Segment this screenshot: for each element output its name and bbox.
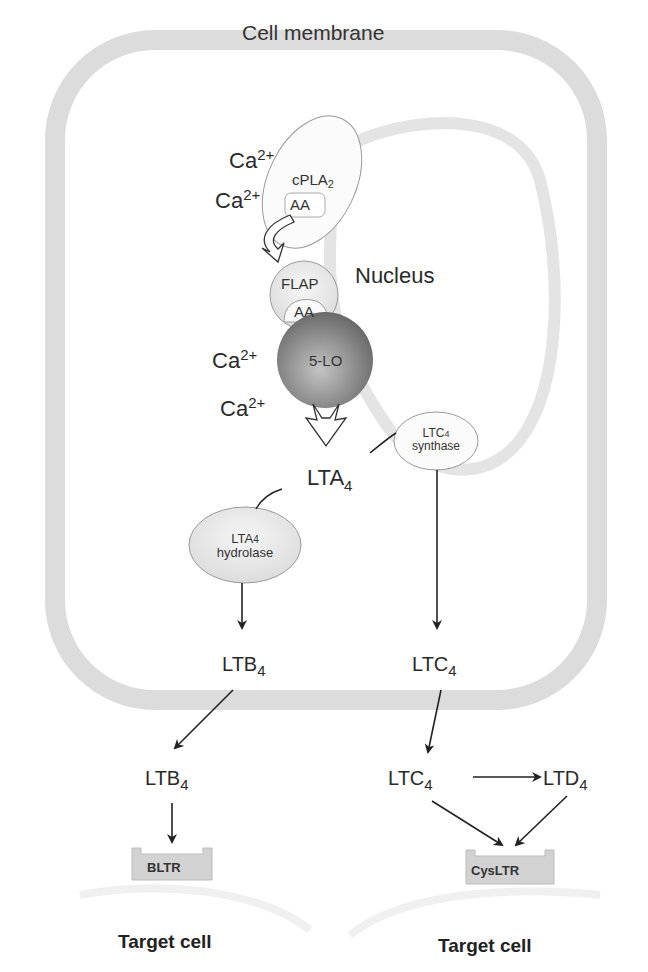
lta4-hydrolase-label: LTA4 hydrolase (213, 532, 277, 559)
ltc4-extracellular-label: LTC4 (388, 768, 433, 788)
calcium-label-4: Ca2+ (220, 398, 265, 420)
cell-membrane-label: Cell membrane (242, 22, 384, 43)
aa-label-flap: AA (294, 304, 314, 319)
nucleus-label: Nucleus (355, 265, 434, 287)
calcium-label-1: Ca2+ (229, 150, 274, 172)
calcium-label-2: Ca2+ (215, 190, 260, 212)
bltr-label: BLTR (147, 861, 181, 874)
target-cell-label-right: Target cell (438, 936, 532, 955)
arrow-ltd4-to-cysltr (516, 796, 567, 845)
target-cell-label-left: Target cell (118, 932, 212, 951)
arrow-ltc4-to-cysltr (432, 801, 502, 845)
lta4-hydrolase-connector (256, 489, 282, 509)
ltc4-synthase-label: LTC4 synthase (408, 427, 464, 452)
ltc4-synthase-connector (370, 433, 396, 453)
cysltr-label: CysLTR (471, 864, 519, 877)
aa-label-cpla2: AA (290, 197, 310, 212)
ltb4-intracellular-label: LTB4 (222, 654, 266, 674)
ltc4-intracellular-label: LTC4 (412, 654, 457, 674)
ltb4-extracellular-label: LTB4 (145, 768, 189, 788)
five-lo-to-lta4-arrow (306, 404, 346, 446)
ltd4-label: LTD4 (543, 768, 588, 788)
target-cell-membrane-left (80, 888, 310, 930)
flap-label: FLAP (281, 276, 319, 291)
lta4-label: LTA4 (307, 467, 352, 489)
calcium-label-3: Ca2+ (212, 350, 257, 372)
five-lo-label: 5-LO (309, 353, 342, 368)
cpla2-label: cPLA2 (292, 172, 334, 187)
target-cell-membrane-right (350, 891, 600, 935)
